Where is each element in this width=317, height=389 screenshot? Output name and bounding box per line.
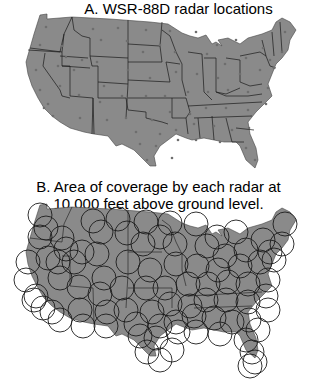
panel-radar-coverage: B. Area of coverage by each radar at 10,… <box>0 0 317 389</box>
us-map-radar-coverage <box>0 0 317 389</box>
radar-coverage-circle <box>238 354 262 378</box>
